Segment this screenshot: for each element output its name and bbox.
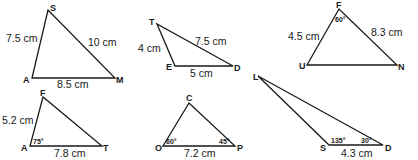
angle-S-label: 135° [331, 137, 346, 144]
triangle-SAM: S A M 7.5 cm 10 cm 8.5 cm [6, 3, 124, 90]
side-SD-label: 4.3 cm [341, 147, 373, 159]
angle-P-label: 45° [219, 138, 230, 145]
vertex-P: P [237, 143, 243, 153]
angle-O-label: 60° [166, 138, 177, 145]
side-FA-label: 5.2 cm [2, 114, 34, 126]
triangle-COP: C O P 7.2 cm 60° 45° [155, 93, 243, 159]
side-AM-label: 8.5 cm [57, 78, 89, 90]
vertex-L: L [253, 72, 259, 82]
vertex-F: F [336, 0, 342, 10]
angle-A-label: 75° [33, 138, 44, 145]
side-FU-label: 4.5 cm [288, 30, 320, 42]
vertex-E: E [166, 62, 172, 72]
vertex-D: D [234, 63, 241, 73]
triangle-FUN: F U N 4.5 cm 8.3 cm 60° [288, 0, 405, 72]
side-TD-label: 7.5 cm [195, 35, 227, 47]
side-TE-label: 4 cm [138, 42, 161, 54]
triangle-TED: T E D 4 cm 7.5 cm 5 cm [138, 17, 241, 79]
vertex-S: S [50, 3, 56, 13]
vertex-F: F [40, 88, 46, 98]
vertex-A: A [21, 143, 28, 153]
vertex-D: D [385, 143, 392, 153]
angle-D-label: 30° [361, 137, 372, 144]
vertex-A: A [23, 75, 30, 85]
vertex-T: T [103, 143, 109, 153]
triangle-FAT: F A T 5.2 cm 7.8 cm 75° [2, 88, 109, 159]
triangle-LSD: L S D 4.3 cm 135° 30° [253, 72, 392, 159]
side-AT-label: 7.8 cm [54, 147, 86, 159]
vertex-S: S [320, 143, 326, 153]
vertex-N: N [398, 62, 405, 72]
vertex-T: T [149, 17, 155, 27]
side-SM-label: 10 cm [88, 36, 117, 48]
triangle-LSD-shape [258, 76, 383, 145]
side-ED-label: 5 cm [190, 67, 213, 79]
side-SA-label: 7.5 cm [6, 32, 38, 44]
vertex-C: C [186, 93, 193, 103]
vertex-O: O [155, 143, 162, 153]
triangles-diagram: S A M 7.5 cm 10 cm 8.5 cm T E D 4 cm 7.5… [0, 0, 418, 160]
side-OP-label: 7.2 cm [184, 147, 216, 159]
side-FN-label: 8.3 cm [371, 26, 403, 38]
vertex-M: M [116, 75, 124, 85]
vertex-U: U [299, 61, 306, 71]
angle-F-label: 60° [335, 16, 346, 23]
